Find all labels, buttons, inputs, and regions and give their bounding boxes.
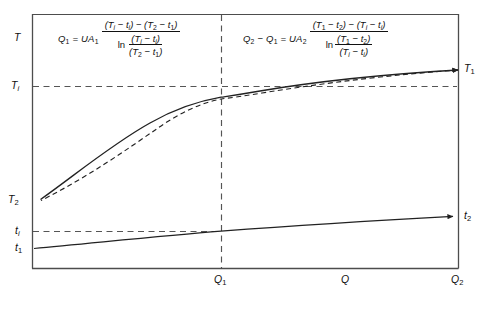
equation-q2-numerator: (T1 − t2) − (Ti − ti): [310, 20, 389, 32]
equation-q1: Q1 = UA1 (Ti − ti) − (T2 − t1) ln (Ti − …: [58, 20, 180, 57]
x-axis-label: Q: [341, 274, 349, 285]
equation-q1-fraction: (Ti − ti) − (T2 − t1) ln (Ti − ti) (T2 −…: [102, 20, 181, 57]
tick-label-ti: ti: [15, 225, 20, 236]
tick-label-Q2: Q2: [451, 274, 463, 285]
tick-label-t1: t1: [15, 242, 22, 253]
tick-label-T1: T1: [464, 63, 475, 74]
tick-label-T2: T2: [8, 194, 19, 205]
equation-q1-lhs: Q1 = UA1: [58, 34, 99, 44]
equation-q2-fraction: (T1 − t2) − (Ti − ti) ln (T1 − t2) (Ti −…: [310, 20, 389, 57]
equation-q1-ln: ln: [118, 40, 125, 50]
equation-q2-log-denominator: (Ti − ti): [337, 45, 370, 57]
equation-q1-log-ratio: (Ti − ti) (T2 − t1): [127, 34, 164, 57]
equation-q2-denominator: ln (T1 − t2) (Ti − ti): [323, 32, 376, 57]
lmtd-diagram: Q1 = UA1 (Ti − ti) − (T2 − t1) ln (Ti − …: [0, 0, 499, 310]
equation-q2-log-numerator: (T1 − t2): [335, 34, 372, 46]
cold-stream-curve: [34, 216, 453, 248]
equation-q2-ln: ln: [326, 40, 333, 50]
tick-label-t2: t2: [464, 210, 471, 221]
equation-q1-numerator: (Ti − ti) − (T2 − t1): [102, 20, 181, 32]
y-axis-label: T: [14, 32, 20, 43]
tick-label-Ti: Ti: [11, 80, 19, 91]
equation-q2-log-ratio: (T1 − t2) (Ti − ti): [335, 34, 372, 57]
hot-stream-dashed-curve: [41, 70, 458, 201]
hot-stream-solid-curve: [41, 70, 459, 200]
tick-label-Q1: Q1: [214, 274, 226, 285]
equation-q1-log-denominator: (T2 − t1): [127, 45, 164, 57]
equation-q1-denominator: ln (Ti − ti) (T2 − t1): [115, 32, 168, 57]
equation-q1-log-numerator: (Ti − ti): [129, 34, 162, 46]
equation-q2-minus-q1: Q2 − Q1 = UA2 (T1 − t2) − (Ti − ti) ln (…: [243, 20, 388, 57]
equation-q2-lhs: Q2 − Q1 = UA2: [243, 34, 307, 44]
